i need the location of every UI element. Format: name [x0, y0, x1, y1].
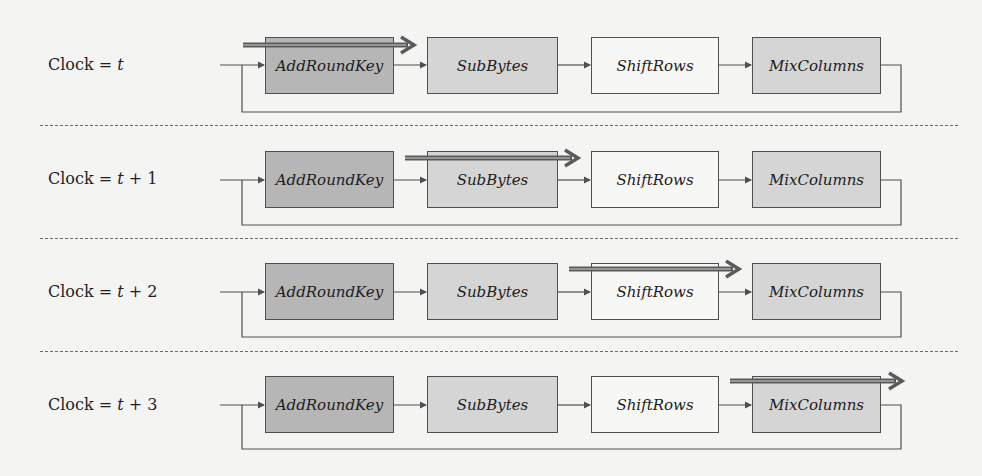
active-stage-arrow-icon — [0, 10, 982, 122]
active-stage-arrow-icon — [0, 237, 982, 349]
active-stage-arrow-icon — [0, 125, 982, 237]
clock-row-t: Clock = t AddRoundKey SubBytes ShiftRows… — [0, 10, 982, 122]
clock-row-t-plus-1: Clock = t + 1 AddRoundKey SubBytes Shift… — [0, 125, 982, 237]
clock-row-t-plus-2: Clock = t + 2 AddRoundKey SubBytes Shift… — [0, 237, 982, 349]
clock-row-t-plus-3: Clock = t + 3 AddRoundKey SubBytes Shift… — [0, 350, 982, 462]
active-stage-arrow-icon — [0, 350, 982, 462]
